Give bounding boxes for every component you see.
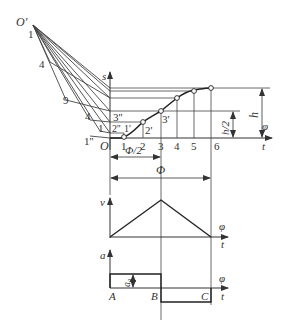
t-label-v: t (221, 238, 225, 250)
s-axis-label: s (102, 70, 106, 82)
label-B: B (151, 290, 158, 302)
ray-labels: O' 1 4 9 4 1 1'' (16, 15, 104, 147)
t-label-a: t (221, 290, 225, 302)
velocity-diagram: v φ t (100, 196, 228, 250)
tick-3: 3 (158, 140, 164, 152)
t-label-s: t (262, 140, 266, 152)
ray-label-1: 1 (28, 28, 34, 40)
phi-label-a: φ (219, 272, 225, 284)
phi-half-label: Φ/2 (125, 144, 142, 156)
ray-label-1b: 1 (98, 122, 104, 134)
h-half-label: h/2 (219, 120, 231, 135)
label-3p: 3' (162, 113, 170, 125)
tick-5: 5 (191, 140, 197, 152)
o-prime-label: O' (16, 15, 28, 29)
origin-label: O (100, 139, 109, 153)
h-label: h (247, 112, 261, 118)
velocity-curve (110, 200, 211, 237)
ray-label-9: 9 (63, 94, 69, 106)
a0-label: a₀ (121, 278, 132, 287)
phi-full-label: Φ (156, 163, 165, 177)
a-axis-label: a (100, 249, 106, 261)
ray-label-1pp: 1'' (84, 135, 93, 147)
ray-label-4b: 4 (85, 110, 91, 122)
label-2pp: 2'' (112, 123, 121, 134)
ray-label-4: 4 (39, 58, 45, 70)
tick-4: 4 (174, 140, 180, 152)
phi-label-s: φ (262, 120, 268, 132)
label-C: C (201, 290, 209, 302)
label-3pp: 3'' (113, 111, 122, 123)
v-axis-label: v (100, 196, 105, 208)
label-1p: 1' (124, 123, 131, 134)
label-A: A (108, 290, 116, 302)
cam-motion-diagram: O' 1 4 9 4 1 1'' s φ t O (0, 0, 306, 326)
acceleration-diagram: a a₀ A B C φ t (100, 249, 228, 302)
phi-label-v: φ (219, 220, 225, 232)
label-2p: 2' (145, 124, 153, 136)
tick-6: 6 (214, 140, 220, 152)
